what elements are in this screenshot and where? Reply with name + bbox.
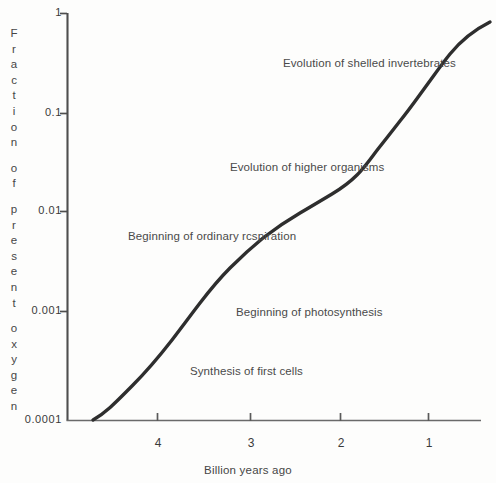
y-axis-title-letter: y — [4, 352, 24, 368]
y-axis-title-letter: c — [4, 73, 24, 89]
y-axis-title-letter: t — [4, 296, 24, 312]
x-axis-title: Billion years ago — [0, 464, 496, 476]
x-tick-2: 2 — [338, 437, 345, 449]
y-axis-title-letter: e — [4, 383, 24, 399]
y-axis-title-letter: g — [4, 368, 24, 384]
y-axis-title-letter: i — [4, 104, 24, 120]
annotation-photosynthesis: Beginning of photosynthesis — [236, 307, 383, 319]
oxygen-curve — [93, 22, 490, 420]
annotation-first-cells: Synthesis of first cells — [190, 366, 303, 378]
y-axis-title-letter: p — [4, 202, 24, 218]
y-axis-title-letter: e — [4, 264, 24, 280]
y-axis-title-letter: o — [4, 161, 24, 177]
y-axis-title-letter: s — [4, 249, 24, 265]
y-axis-title-letter: x — [4, 337, 24, 353]
y-axis-title-letter: n — [4, 135, 24, 151]
y-axis-title: Fraction of present oxygen — [4, 26, 24, 415]
x-tick-3: 3 — [248, 437, 255, 449]
y-axis-title-letter: n — [4, 280, 24, 296]
y-axis-title-letter: a — [4, 57, 24, 73]
y-axis-title-letter: r — [4, 42, 24, 58]
y-axis-title-letter: o — [4, 321, 24, 337]
x-tick-4: 4 — [155, 437, 162, 449]
y-axis-title-letter: o — [4, 120, 24, 136]
x-tick-1: 1 — [426, 437, 433, 449]
y-axis-ticks — [60, 14, 67, 312]
y-axis-title-word-gap — [4, 151, 24, 161]
y-axis-title-letter: e — [4, 233, 24, 249]
y-axis-title-letter: f — [4, 176, 24, 192]
y-axis-title-word-gap — [4, 192, 24, 202]
y-axis-title-word-gap — [4, 311, 24, 321]
annotation-higher-organisms: Evolution of higher organisms — [230, 162, 384, 174]
y-axis-title-letter: r — [4, 218, 24, 234]
y-axis-title-letter: t — [4, 88, 24, 104]
y-axis-title-letter: n — [4, 399, 24, 415]
chart-figure: 1 0.1 0.01 0.001 0.0001 4 3 2 1 Billion … — [0, 0, 496, 483]
annotation-ordinary-respiration: Beginning of ordinary rcspiration — [128, 231, 296, 243]
annotation-shelled-invertebrates: Evolution of shelled invertebrates — [283, 58, 456, 70]
y-axis-title-letter: F — [4, 26, 24, 42]
